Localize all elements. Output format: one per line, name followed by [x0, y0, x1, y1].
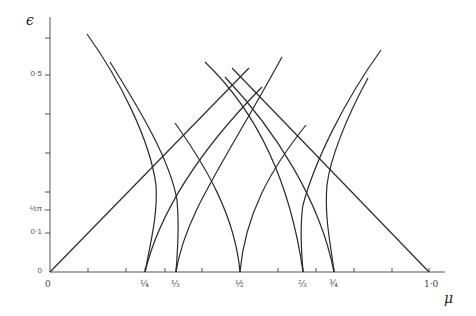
- right-outer-curve: [301, 50, 381, 272]
- axes: [50, 17, 445, 272]
- x-axis-label: ½: [235, 279, 244, 289]
- stability-curves: [50, 34, 429, 272]
- left-outer-curve: [87, 34, 156, 272]
- x-axis-label: ⅓: [171, 279, 180, 289]
- y-axis-label: ½π: [30, 204, 42, 213]
- right-inner-curve: [326, 78, 368, 272]
- x-axis-label: 0: [45, 279, 51, 289]
- x-axis-label: ⅔: [298, 279, 307, 289]
- x-axis-ticks: [88, 268, 429, 272]
- y-axis-label: 0·5: [30, 69, 42, 78]
- third-desc-to-half: [175, 123, 240, 272]
- desc-to-threequarter: [225, 77, 334, 272]
- origin-line: [50, 68, 249, 272]
- diagram-canvas: [0, 0, 476, 316]
- x-axis-symbol: μ: [444, 290, 453, 306]
- left-inner-curve: [110, 62, 178, 272]
- y-axis-label: 0: [38, 266, 42, 275]
- x-axis-label: ¾: [329, 279, 338, 289]
- y-axis-ticks: [45, 38, 50, 233]
- y-axis-symbol: ϵ: [26, 12, 34, 28]
- right-descending-line: [232, 68, 429, 272]
- y-axis-label: 0·1: [30, 227, 42, 236]
- x-axis-label: ¼: [140, 279, 149, 289]
- x-axis-label: 1·0: [424, 279, 438, 289]
- half-rising: [240, 125, 306, 272]
